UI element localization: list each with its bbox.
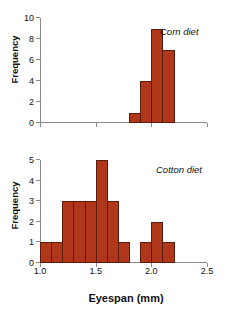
y-tick — [36, 200, 40, 201]
x-tick-label: 2.0 — [145, 267, 158, 276]
y-tick — [36, 180, 40, 181]
histogram-bar — [162, 50, 174, 124]
chart-panel-corn-diet: 0246810 Frequency Corn diet — [0, 4, 234, 144]
y-axis-corn — [40, 18, 41, 123]
y-tick-label: 6 — [29, 56, 34, 65]
x-tick — [151, 123, 152, 127]
y-tick — [36, 17, 40, 18]
histogram-bar — [118, 242, 130, 263]
x-tick-label: 1.5 — [89, 267, 102, 276]
y-tick-label: 8 — [29, 35, 34, 44]
x-tick-label: 1.0 — [34, 267, 47, 276]
y-tick-label: 2 — [29, 98, 34, 107]
y-tick — [36, 59, 40, 60]
y-tick-label: 3 — [29, 197, 34, 206]
x-tick — [207, 123, 208, 127]
y-tick-label: 2 — [29, 217, 34, 226]
y-tick — [36, 221, 40, 222]
y-tick-label: 4 — [29, 176, 34, 185]
y-tick — [36, 38, 40, 39]
x-tick-label: 2.5 — [201, 267, 214, 276]
y-tick-label: 5 — [29, 156, 34, 165]
histogram-figure: 0246810 Frequency Corn diet 012345 1.01.… — [0, 0, 234, 313]
x-axis-corn — [40, 122, 207, 123]
y-tick-label: 0 — [29, 119, 34, 128]
x-tick — [40, 123, 41, 127]
panel-label-corn-diet: Corn diet — [160, 26, 199, 37]
y-tick — [36, 159, 40, 160]
y-tick-label: 1 — [29, 238, 34, 247]
x-axis-label-text: Eyespan (mm) — [88, 292, 163, 304]
panel-label-cotton-diet: Cotton diet — [156, 164, 202, 175]
x-axis-label: Eyespan (mm) — [0, 292, 234, 304]
y-tick — [36, 241, 40, 242]
y-tick — [36, 101, 40, 102]
plot-area-cotton: 012345 1.01.52.02.5 — [40, 160, 207, 263]
y-tick — [36, 80, 40, 81]
y-tick-label: 10 — [24, 14, 34, 23]
x-tick — [96, 123, 97, 127]
y-axis-label-cotton: Frequency — [9, 171, 20, 241]
y-axis-label-corn: Frequency — [9, 25, 20, 95]
histogram-bar — [162, 242, 174, 263]
y-tick-label: 4 — [29, 77, 34, 86]
